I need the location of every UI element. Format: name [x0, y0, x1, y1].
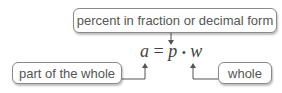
var-a: a — [140, 41, 149, 61]
var-w: w — [190, 41, 202, 61]
multiply-dot: • — [182, 46, 186, 60]
label-part: part of the whole — [12, 62, 122, 84]
label-percent-text: percent in fraction or decimal form — [77, 13, 274, 28]
equals-sign: = — [154, 41, 164, 61]
label-whole: whole — [218, 62, 272, 84]
label-whole-text: whole — [228, 66, 262, 81]
equation: a = p • w — [140, 41, 202, 62]
var-p: p — [168, 41, 177, 61]
label-part-text: part of the whole — [19, 66, 115, 81]
label-percent: percent in fraction or decimal form — [73, 8, 277, 33]
